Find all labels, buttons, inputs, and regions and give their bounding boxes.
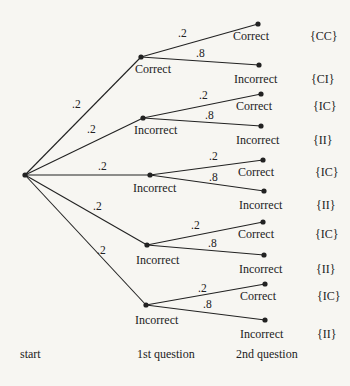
probability-label: .2 — [198, 283, 207, 295]
outcome-label: Correct — [233, 30, 269, 42]
outcome-set: {II} — [316, 263, 336, 275]
leaf-node — [256, 62, 261, 67]
leaf-node — [258, 91, 263, 96]
outcome-label: Incorrect — [240, 328, 283, 340]
leaf-node — [262, 281, 267, 286]
probability-label: .2 — [98, 161, 107, 173]
leaf-node — [262, 317, 267, 322]
outcome-label: Correct — [238, 166, 274, 178]
probability-label: .8 — [196, 48, 205, 60]
probability-label: .2 — [93, 201, 102, 213]
outcome-label: Correct — [238, 228, 274, 240]
probability-label: .8 — [208, 238, 217, 250]
outcome-label: Correct — [240, 290, 276, 302]
branch-edge — [25, 175, 146, 305]
leaf-node — [260, 219, 265, 224]
first-answer-label: Incorrect — [134, 124, 177, 136]
first-question-node — [140, 115, 145, 120]
probability-label: .2 — [191, 220, 200, 232]
leaf-node — [261, 252, 266, 257]
branch-edge — [25, 57, 141, 175]
column-label: start — [20, 348, 41, 360]
probability-label: .2 — [87, 124, 96, 136]
outcome-set: {IC} — [315, 166, 339, 178]
outcome-label: Incorrect — [239, 199, 282, 211]
outcome-set: {IC} — [317, 290, 341, 302]
branch-edge — [25, 175, 147, 245]
outcome-set: {II} — [313, 134, 333, 146]
first-answer-label: Incorrect — [136, 254, 179, 266]
probability-label: .2 — [178, 28, 187, 40]
probability-label: .2 — [199, 90, 208, 102]
outcome-set: {CC} — [310, 30, 338, 42]
column-label: 2nd question — [236, 348, 298, 360]
start-node — [22, 172, 27, 177]
probability-label: .8 — [205, 110, 214, 122]
outcome-label: Incorrect — [239, 263, 282, 275]
probability-label: .2 — [209, 151, 218, 163]
outcome-label: Incorrect — [234, 73, 277, 85]
leaf-node — [258, 123, 263, 128]
leaf-node — [261, 188, 266, 193]
branch-edge — [25, 118, 143, 175]
leaf-node — [255, 21, 260, 26]
outcome-set: {IC} — [315, 228, 339, 240]
outcome-label: Incorrect — [236, 134, 279, 146]
outcome-label: Correct — [236, 100, 272, 112]
leaf-node — [260, 157, 265, 162]
first-question-node — [147, 172, 152, 177]
first-question-node — [143, 302, 148, 307]
probability-label: .2 — [72, 99, 81, 111]
first-question-node — [138, 54, 143, 59]
outcome-set: {IC} — [313, 100, 337, 112]
outcome-set: {II} — [317, 328, 337, 340]
first-answer-label: Incorrect — [135, 314, 178, 326]
probability-label: .8 — [203, 299, 212, 311]
probability-label: .8 — [209, 172, 218, 184]
first-answer-label: Incorrect — [133, 182, 176, 194]
outcome-set: {II} — [316, 199, 336, 211]
probability-label: .2 — [97, 245, 106, 257]
first-question-node — [144, 242, 149, 247]
outcome-set: {CI} — [311, 73, 335, 85]
column-label: 1st question — [137, 348, 195, 360]
first-answer-label: Correct — [135, 63, 171, 75]
